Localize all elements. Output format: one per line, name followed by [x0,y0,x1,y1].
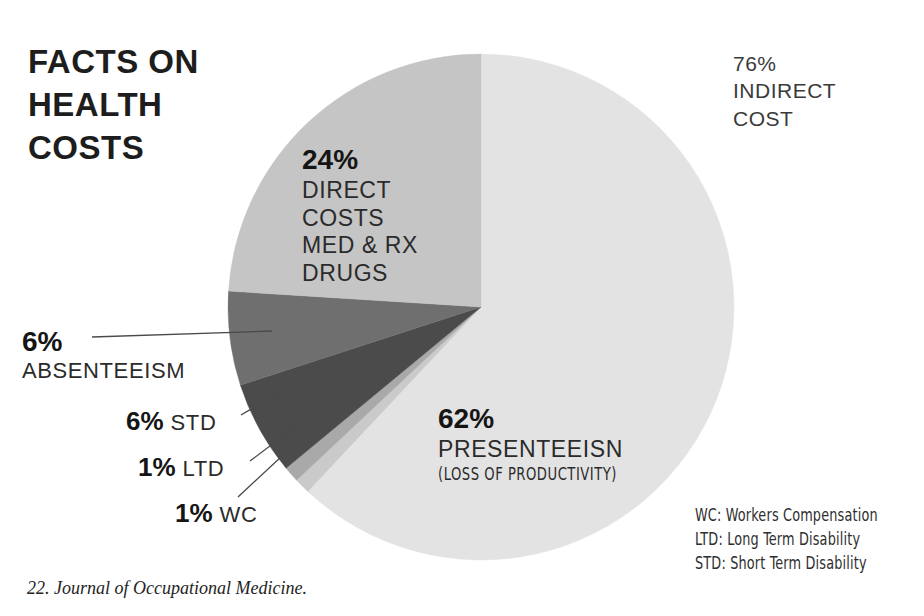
slice-desc-wc: WC [220,502,258,527]
slice-label-wc: 1%WC [175,498,257,529]
slice-desc-std: STD [171,410,217,435]
slice-percent-absenteeism: 6% [22,326,185,358]
slice-label-std: 6%STD [126,406,216,437]
page-title: FACTS ON HEALTH COSTS [28,40,238,170]
legend-item-std: STD: Short Term Disability [695,551,878,575]
slice-label-direct-costs: 24% DIRECT COSTS MED & RX DRUGS [302,143,418,288]
slice-desc-direct-costs-line-2: COSTS [302,205,418,233]
legend-item-wc: WC: Workers Compensation [695,503,878,527]
slice-desc-ltd: LTD [183,456,225,481]
slice-desc-indirect-cost-line-1: INDIRECT [733,77,836,104]
slice-label-absenteeism: 6% ABSENTEEISM [22,326,185,384]
slice-label-ltd: 1%LTD [138,452,224,483]
slice-desc-direct-costs-line-1: DIRECT [302,177,418,205]
slice-percent-direct-costs: 24% [302,143,418,177]
slice-label-indirect-cost: 76% INDIRECT COST [733,50,836,132]
page-title-line-2: HEALTH [28,83,238,126]
slice-percent-wc: 1% [175,498,213,528]
slice-desc-direct-costs-line-4: DRUGS [302,260,418,288]
slice-percent-indirect-cost: 76% [733,50,836,77]
page-title-line-3: COSTS [28,126,238,169]
slice-desc-absenteeism: ABSENTEEISM [22,358,185,384]
legend-item-ltd: LTD: Long Term Disability [695,527,878,551]
slice-desc-indirect-cost-line-2: COST [733,105,836,132]
slice-desc-direct-costs-line-3: MED & RX [302,232,418,260]
slice-subdesc-presenteeism: (LOSS OF PRODUCTIVITY) [438,463,617,486]
slice-desc-presenteeism: PRESENTEEISN [438,436,646,463]
slice-percent-presenteeism: 62% [438,402,646,436]
abbreviation-legend: WC: Workers Compensation LTD: Long Term … [695,503,913,575]
infographic-canvas: FACTS ON HEALTH COSTS 24% DIRECT COSTS M… [0,0,924,616]
slice-percent-std: 6% [126,406,164,436]
slice-label-presenteeism: 62% PRESENTEEISN (LOSS OF PRODUCTIVITY) [438,402,646,486]
slice-percent-ltd: 1% [138,452,176,482]
page-title-line-1: FACTS ON [28,40,238,83]
source-footnote: 22. Journal of Occupational Medicine. [27,578,307,599]
